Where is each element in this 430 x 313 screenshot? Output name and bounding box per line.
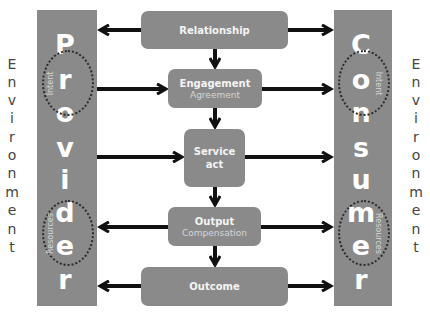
relationship-title: Relationship	[179, 24, 250, 37]
service-act-title-line2: act	[206, 158, 223, 171]
outcome-box: Outcome	[141, 267, 288, 306]
service-act-title-line1: Service	[194, 145, 236, 158]
relationship-box: Relationship	[141, 11, 288, 49]
service-act-box: Service act	[184, 129, 245, 187]
output-title: Output	[195, 215, 234, 228]
engagement-box: Engagement Agreement	[168, 69, 262, 108]
engagement-title: Engagement	[180, 77, 251, 90]
output-subtitle: Compensation	[182, 228, 247, 239]
engagement-subtitle: Agreement	[190, 90, 240, 101]
output-box: Output Compensation	[168, 207, 261, 246]
outcome-title: Outcome	[189, 280, 239, 293]
